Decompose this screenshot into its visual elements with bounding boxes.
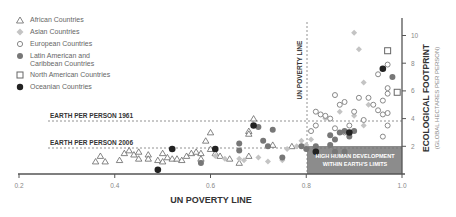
y-axis-label: ECOLOGICAL FOOTPRINT [421, 43, 431, 152]
data-point [385, 86, 390, 91]
data-point [380, 65, 387, 72]
data-point [236, 141, 242, 147]
svg-text:6: 6 [411, 87, 415, 94]
svg-text:2: 2 [411, 143, 415, 150]
data-point [332, 126, 337, 131]
data-point [250, 122, 257, 129]
data-point [298, 138, 304, 144]
data-point [332, 136, 338, 142]
x-axis-label: UN POVERTY LINE [170, 195, 251, 205]
data-point [155, 157, 161, 162]
earth-2006-label: EARTH PER PERSON 2006 [50, 139, 133, 146]
data-point [327, 132, 333, 138]
data-point [323, 113, 328, 118]
data-point [155, 167, 162, 174]
legend-label: Asian Countries [30, 28, 79, 36]
earth-1961-label: EARTH PER PERSON 1961 [50, 112, 133, 119]
data-point [342, 99, 347, 104]
data-point [380, 134, 385, 139]
data-point [313, 123, 318, 128]
data-point [389, 74, 395, 80]
data-point [255, 154, 261, 160]
box-label-1: HIGH HUMAN DEVELOPMENT [315, 153, 395, 159]
data-point [380, 112, 385, 117]
diamond-icon [16, 28, 30, 37]
data-point [198, 160, 204, 166]
data-point [385, 48, 391, 54]
svg-text:8: 8 [411, 60, 415, 67]
data-point [352, 109, 357, 114]
data-point [135, 149, 141, 154]
legend-item-african: African Countries [16, 16, 110, 28]
data-point [260, 138, 266, 144]
data-point [380, 98, 385, 103]
legend-item-latin-american: Latin American and Caribbean Countries [16, 52, 110, 71]
svg-text:0.4: 0.4 [110, 182, 119, 189]
data-point [203, 138, 209, 143]
data-point [313, 109, 318, 114]
circle-dark-icon [16, 83, 30, 92]
data-point [346, 129, 353, 136]
data-point [394, 89, 400, 95]
data-point [236, 147, 242, 153]
data-point [376, 72, 381, 77]
legend-item-north-american: North American Countries [16, 71, 110, 83]
data-point [366, 95, 371, 100]
data-point [236, 156, 242, 162]
triangle-open-icon [16, 16, 30, 25]
data-point [284, 146, 290, 152]
legend-label: North American Countries [30, 71, 110, 79]
data-point [347, 123, 352, 128]
data-point [169, 146, 176, 153]
data-point [265, 143, 271, 149]
data-point [337, 102, 342, 107]
data-point [126, 147, 132, 152]
svg-text:0.8: 0.8 [302, 182, 311, 189]
data-point [92, 159, 98, 164]
data-point [193, 149, 199, 154]
data-point [313, 143, 319, 149]
data-point [361, 80, 367, 86]
legend-item-oceanian: Oceanian Countries [16, 83, 110, 95]
y-axis-sublabel: (GLOBAL HECTARES PER PERSON) [434, 47, 440, 150]
data-point [385, 62, 390, 67]
data-point [116, 157, 122, 162]
data-point [279, 154, 285, 160]
data-point [385, 91, 390, 96]
legend-label: Oceanian Countries [30, 83, 92, 91]
data-point [159, 150, 165, 155]
svg-text:0.2: 0.2 [14, 182, 23, 189]
data-point [309, 129, 314, 134]
data-point [361, 117, 366, 122]
svg-text:10: 10 [411, 32, 419, 39]
data-point [246, 153, 252, 158]
data-point [327, 142, 333, 148]
data-point [102, 159, 108, 164]
circle-mid-icon [16, 52, 30, 61]
data-point [361, 123, 367, 129]
poverty-line-label: UN POVERTY LINE [296, 40, 303, 99]
legend: African Countries Asian Countries Europe… [16, 16, 110, 95]
svg-text:0.6: 0.6 [206, 182, 215, 189]
legend-label: Latin American and Caribbean Countries [30, 52, 110, 68]
data-point [97, 153, 103, 158]
data-point [265, 159, 271, 165]
x-ticks: 0.20.40.60.81.0 [14, 174, 406, 189]
box-label-2: WITHIN EARTH'S LIMITS [323, 161, 388, 167]
data-point [371, 102, 376, 107]
sustainable-zone-box [307, 146, 402, 174]
data-point [174, 156, 180, 161]
legend-item-european: European Countries [16, 40, 110, 52]
svg-text:1.0: 1.0 [397, 182, 406, 189]
data-point [303, 146, 309, 152]
data-point [212, 146, 219, 153]
svg-text:4: 4 [411, 115, 415, 122]
data-point [356, 95, 361, 100]
data-point [385, 111, 390, 116]
data-point [351, 30, 357, 36]
data-point [337, 109, 343, 115]
square-open-icon [16, 71, 30, 80]
data-point [356, 46, 362, 52]
legend-item-asian: Asian Countries [16, 28, 110, 40]
legend-label: European Countries [30, 40, 92, 48]
